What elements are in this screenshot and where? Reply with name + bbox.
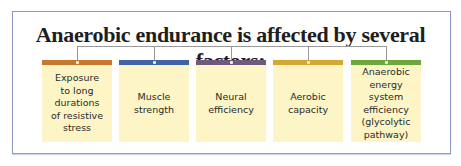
connector-line-4	[308, 46, 309, 61]
connector-node-icon	[153, 61, 156, 64]
connector-node-icon	[307, 61, 310, 64]
connector-node-icon	[230, 61, 233, 64]
connector-node-icon	[385, 61, 388, 64]
factor-label: Exposure to long durations of resistive …	[42, 65, 112, 142]
factor-card-exposure: Exposure to long durations of resistive …	[42, 60, 112, 142]
factor-card-muscle-strength: Muscle strength	[119, 60, 189, 142]
factor-card-neural-efficiency: Neural efficiency	[196, 60, 266, 142]
factor-card-anaerobic-energy-system: Anaerobic energy system efficiency (glyc…	[351, 60, 421, 142]
factor-card-aerobic-capacity: Aerobic capacity	[273, 60, 343, 142]
factor-label: Neural efficiency	[196, 65, 266, 142]
connector-node-icon	[76, 61, 79, 64]
factor-label: Aerobic capacity	[273, 65, 343, 142]
connector-line-1	[77, 46, 78, 61]
connector-line-5	[386, 46, 387, 61]
factor-label: Muscle strength	[119, 65, 189, 142]
factor-label: Anaerobic energy system efficiency (glyc…	[351, 65, 421, 142]
connector-line-3	[231, 46, 232, 61]
connector-line-2	[154, 46, 155, 61]
